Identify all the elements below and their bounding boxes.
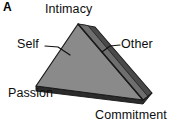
label-intimacy: Intimacy	[45, 3, 92, 16]
label-self: Self	[17, 38, 39, 51]
label-other: Other	[121, 38, 153, 51]
figure-panel: A Intimacy Self Other Passion Commitment	[0, 0, 184, 127]
label-passion: Passion	[8, 87, 53, 100]
panel-letter: A	[3, 1, 12, 14]
label-commitment: Commitment	[95, 109, 167, 122]
